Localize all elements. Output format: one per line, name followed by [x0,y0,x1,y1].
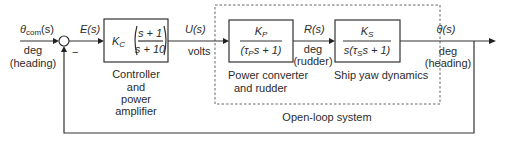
rudder-signal-note: (rudder) [293,55,332,67]
control-signal-unit: volts [188,45,211,57]
block-diagram: Open-loop system θcom(s) deg (heading) −… [0,0,507,143]
ship-yaw-numerator-sub: S [368,30,374,39]
input-suffix: (s) [41,23,54,35]
control-signal-label: U(s) [185,23,206,35]
input-note: (heading) [10,57,56,69]
svg-text:Controller: Controller [112,68,160,80]
error-arrowhead [98,38,104,44]
ship-yaw-denominator-pre: s(τ [344,44,358,56]
rudder-signal-arrowhead [329,38,335,44]
svg-text:and rudder: and rudder [234,82,288,94]
svg-text:θcom(s): θcom(s) [20,23,54,37]
input-arrowhead [53,38,59,44]
input-unit: deg [24,44,42,56]
open-loop-label: Open-loop system [282,111,371,123]
ship-yaw-caption: Ship yaw dynamics [334,69,429,81]
controller-gain-sub: C [119,40,125,49]
svg-text:s(τSs + 1): s(τSs + 1) [344,44,391,58]
output-arrowhead [489,38,496,44]
output-signal-label: θ(s) [437,23,456,35]
power-converter-denominator-post: s + 1) [254,44,282,56]
rudder-signal-unit: deg [304,43,322,55]
input-signal-label: θcom(s) deg (heading) [10,23,56,69]
svg-text:amplifier: amplifier [115,105,157,117]
svg-text:power: power [121,93,151,105]
power-converter-caption: Power converter and rudder [228,69,308,94]
svg-text:Power converter: Power converter [228,69,308,81]
control-signal-arrowhead [223,38,229,44]
output-note: (heading) [425,57,471,69]
input-subscript: com [26,28,41,37]
summing-junction [59,36,69,46]
controller-denominator: s + 10 [135,43,166,55]
rudder-signal-label: R(s) [304,23,325,35]
power-converter-numerator-sub: P [262,30,268,39]
controller-numerator: s + 1 [138,27,162,39]
feedback-sign: − [72,46,78,58]
ship-yaw-denominator-post: s + 1) [362,44,390,56]
error-signal-label: E(s) [80,23,101,35]
svg-text:and: and [127,81,145,93]
feedback-arrowhead [61,46,67,52]
output-unit: deg [439,45,457,57]
controller-caption: Controller and power amplifier [112,68,160,117]
svg-text:(τPs + 1): (τPs + 1) [241,44,282,58]
